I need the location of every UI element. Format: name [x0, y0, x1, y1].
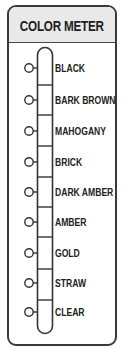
level-label-brick: BRICK: [55, 156, 82, 168]
level-label-clear: CLEAR: [55, 306, 85, 318]
level-label-straw: STRAW: [55, 277, 86, 289]
marker-clear-icon: [25, 308, 38, 316]
level-label-black: BLACK: [55, 62, 85, 74]
marker-bark-brown-icon: [25, 96, 38, 104]
marker-dark-amber-icon: [25, 188, 38, 196]
level-label-amber: AMBER: [55, 216, 86, 228]
tube-outline: [38, 48, 53, 334]
level-label-mahogany: MAHOGANY: [55, 125, 106, 137]
marker-gold-icon: [25, 249, 38, 257]
level-markers: [25, 64, 38, 316]
level-label-gold: GOLD: [55, 247, 80, 259]
marker-amber-icon: [25, 218, 38, 226]
marker-straw-icon: [25, 279, 38, 287]
level-label-bark-brown: BARK BROWN: [55, 94, 116, 106]
marker-mahogany-icon: [25, 127, 38, 135]
meter-tube-graphic: [0, 0, 125, 348]
marker-black-icon: [25, 64, 38, 72]
marker-brick-icon: [25, 158, 38, 166]
level-label-dark-amber: DARK AMBER: [55, 186, 113, 198]
